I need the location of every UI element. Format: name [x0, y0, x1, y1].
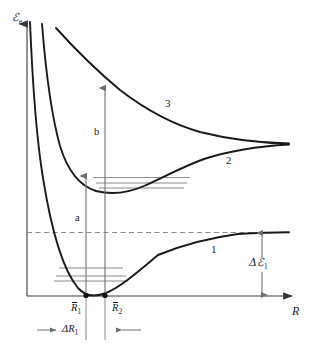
r-guide-lines: [86, 296, 105, 340]
marker-r1-dot: [83, 293, 88, 298]
r2-label: R2: [112, 303, 122, 314]
curve-1-label: 1: [211, 244, 217, 255]
r1-label-subscript: 1: [77, 307, 81, 316]
y-axis-label: ℰe: [12, 12, 22, 24]
transition-a-label: a: [75, 213, 80, 224]
x-axis-label: R: [292, 305, 299, 317]
delta-r1-label: ΔR1: [62, 324, 78, 335]
delta-r1-label-symbol: ΔR: [62, 323, 75, 334]
vibrational-levels-lower-well: [54, 268, 128, 281]
y-axis-label-subscript: e: [19, 17, 22, 26]
r2-label-subscript: 2: [118, 307, 122, 316]
y-axis-label-symbol: ℰ: [12, 11, 19, 24]
curve-3-path: [56, 28, 289, 144]
delta-e1-label-subscript: 1: [264, 262, 268, 271]
r1-label: R1: [71, 303, 81, 314]
potential-energy-figure: ℰe R 3 2 1 b a R1 R2 ΔR1 Δℰ1: [0, 0, 313, 350]
curve-1-path: [30, 22, 289, 296]
marker-r2-dot: [102, 293, 107, 298]
delta-e1-label-symbol: Δℰ: [249, 256, 264, 269]
delta-e1-label: Δℰ1: [249, 257, 268, 269]
curve-3-label: 3: [165, 98, 171, 109]
curve-2-label: 2: [226, 155, 232, 166]
transition-b-label: b: [94, 127, 99, 138]
potential-curves-svg: [0, 0, 313, 350]
delta-r1-label-subscript: 1: [75, 328, 79, 337]
